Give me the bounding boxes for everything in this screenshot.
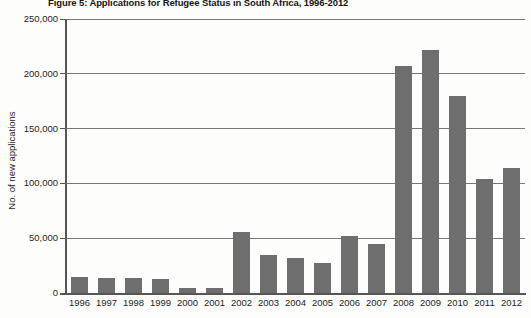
x-axis-tick-labels: 1996199719981999200020012002200320042005…	[66, 297, 525, 315]
bar-2006	[341, 236, 358, 293]
bar-2008	[395, 66, 412, 293]
bar-1998	[125, 278, 142, 293]
bar-2002	[233, 232, 250, 293]
bar-1996	[71, 277, 88, 293]
plot-area	[66, 19, 525, 293]
y-axis-title: No. of new applications	[6, 76, 17, 246]
x-axis-line	[60, 293, 526, 295]
bar-2012	[503, 168, 520, 293]
bar-2001	[206, 288, 223, 293]
gridline	[66, 73, 525, 74]
y-axis-tick-mark	[60, 183, 66, 184]
y-axis-tick-label: 0	[2, 287, 58, 298]
bar-2000	[179, 288, 196, 293]
gridline	[66, 19, 525, 20]
bar-2005	[314, 263, 331, 293]
figure-container: Figure 5: Applications for Refugee Statu…	[0, 0, 531, 318]
y-axis-tick-mark	[60, 73, 66, 74]
bar-2009	[422, 50, 439, 293]
y-axis-tick-mark	[60, 128, 66, 129]
bar-2011	[476, 179, 493, 293]
x-axis-tick-label: 2012	[495, 297, 529, 308]
y-axis-tick-mark	[60, 238, 66, 239]
y-axis-tick-label: 250,000	[2, 13, 58, 24]
bar-1999	[152, 279, 169, 293]
bar-2007	[368, 244, 385, 293]
y-axis-tick-mark	[60, 293, 66, 294]
bar-2004	[287, 258, 304, 293]
bar-2010	[449, 96, 466, 293]
chart-title: Figure 5: Applications for Refugee Statu…	[48, 0, 348, 8]
y-axis-tick-mark	[60, 19, 66, 20]
bar-1997	[98, 278, 115, 293]
bar-2003	[260, 255, 277, 293]
